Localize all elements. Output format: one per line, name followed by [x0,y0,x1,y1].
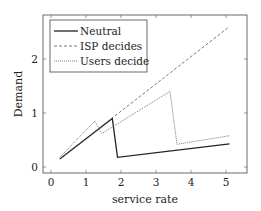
legend-label-isp-decides: ISP decides [80,40,142,52]
x-tick-label: 5 [223,176,230,188]
x-axis-label: service rate [112,193,178,206]
axis-tick-labels: 012345012 [31,53,229,188]
x-tick-label: 3 [153,176,160,188]
x-tick-label: 0 [48,176,55,188]
x-tick-label: 1 [83,176,90,188]
legend-label-neutral: Neutral [80,25,122,37]
demand-vs-service-rate-chart: 012345012 service rate Demand Neutral IS… [0,0,261,211]
y-axis-label: Demand [12,71,25,117]
legend-label-users-decide: Users decide [80,55,149,67]
y-tick-label: 1 [31,107,38,119]
x-tick-label: 4 [188,176,195,188]
legend: Neutral ISP decides Users decide [50,20,149,72]
y-tick-label: 2 [31,53,38,65]
x-tick-label: 2 [118,176,125,188]
y-tick-label: 0 [31,161,38,173]
